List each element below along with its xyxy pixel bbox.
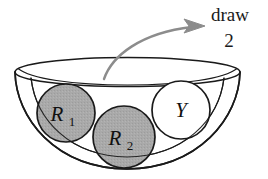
- figure-container: Y R 1 R 2 draw 2: [0, 0, 268, 179]
- ball-r2-label: R: [108, 126, 122, 150]
- draw-annotation-line2: 2: [224, 30, 234, 51]
- ball-y[interactable]: Y: [152, 81, 210, 139]
- bowl-rim: [15, 58, 240, 87]
- ball-r1[interactable]: R 1: [37, 84, 95, 142]
- ball-r1-label: R: [50, 102, 64, 126]
- ball-r2-shape: [93, 106, 155, 168]
- bowl-diagram: Y R 1 R 2 draw 2: [0, 0, 268, 179]
- ball-r1-shape: [37, 84, 95, 142]
- ball-r2[interactable]: R 2: [93, 106, 155, 168]
- ball-r1-sublabel: 1: [69, 114, 76, 129]
- ball-r2-sublabel: 2: [127, 138, 134, 153]
- draw-annotation-line1: draw: [211, 4, 249, 25]
- draw-arrow-head: [184, 19, 205, 33]
